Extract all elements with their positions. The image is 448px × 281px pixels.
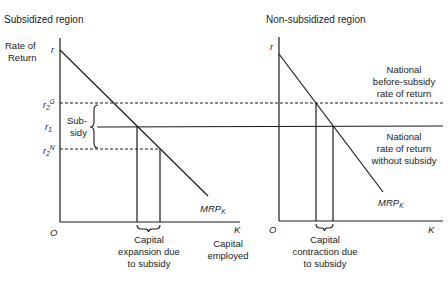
right-brace-caption-line2: contraction due: [280, 246, 370, 257]
right-mrp-label: MRPK: [378, 197, 403, 211]
left-x-axis-end-label: K: [234, 224, 240, 235]
r1-label: r1: [45, 121, 52, 135]
right-origin-label: O: [269, 224, 276, 235]
left-brace-caption-line2: expansion due: [104, 246, 194, 257]
dashed-caption-line2: before-subsidy: [360, 76, 448, 87]
left-panel-title: Subsidized region: [4, 14, 84, 25]
subsidy-brace: [90, 105, 98, 148]
r2n-label: r2N: [43, 142, 55, 159]
left-expansion-brace: [137, 225, 160, 232]
solid-caption-line3: without subsidy: [360, 155, 448, 166]
r2g-label: r2G: [43, 96, 55, 113]
left-mrp-label: MRPK: [200, 203, 225, 217]
subsidy-label-line2: sidy: [70, 127, 87, 138]
y-axis-label-line1: Rate of: [5, 40, 36, 51]
right-y-intercept-label: r: [270, 41, 273, 52]
left-origin-label: O: [50, 227, 57, 238]
r1-solid-line: [97, 126, 443, 127]
right-x-axis-end-label: K: [428, 224, 434, 235]
dashed-caption-line3: rate of return: [360, 88, 448, 99]
left-y-intercept-label: r: [51, 44, 54, 55]
solid-caption-line2: rate of return: [360, 143, 448, 154]
left-brace-caption-line3: to subsidy: [104, 258, 194, 269]
right-panel-title: Non-subsidized region: [266, 14, 366, 25]
dashed-caption-line1: National: [360, 64, 448, 75]
right-brace-caption-line1: Capital: [280, 234, 370, 245]
x-axis-caption-line2: employed: [200, 250, 256, 261]
right-contraction-brace: [316, 224, 333, 231]
left-brace-caption-line1: Capital: [104, 234, 194, 245]
solid-caption-line1: National: [360, 131, 448, 142]
right-brace-caption-line3: to subsidy: [280, 258, 370, 269]
x-axis-caption-line1: Capital: [200, 238, 256, 249]
y-axis-label-line2: Return: [8, 52, 37, 63]
subsidy-label-line1: Sub-: [67, 115, 87, 126]
